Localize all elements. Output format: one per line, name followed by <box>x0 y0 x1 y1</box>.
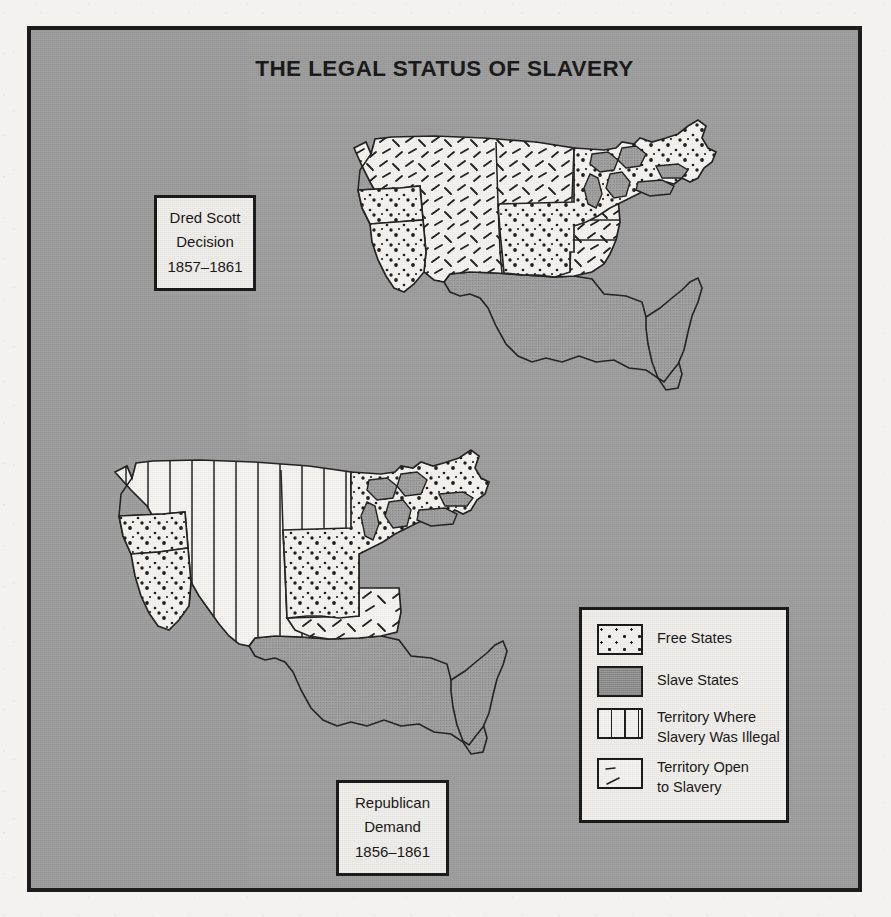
callout-dred-scott: Dred Scott Decision 1857–1861 <box>154 195 256 291</box>
legend-label-territory-open-line2: to Slavery <box>657 779 721 795</box>
legend-label-territory-open: Territory Open to Slavery <box>657 758 749 797</box>
legend-row-territory-open: Territory Open to Slavery <box>597 758 786 797</box>
region-california <box>131 548 191 630</box>
territory-open-swatch-marks <box>599 760 643 789</box>
figure-title: THE LEGAL STATUS OF SLAVERY <box>31 56 858 82</box>
callout-dred-line2: Decision <box>167 230 243 254</box>
territory-open-swatch-icon <box>597 758 643 789</box>
callout-dred-line1: Dred Scott <box>167 206 243 230</box>
legend-label-territory-illegal: Territory Where Slavery Was Illegal <box>657 708 780 747</box>
region-oregon <box>119 512 188 554</box>
legend-label-territory-illegal-line2: Slavery Was Illegal <box>657 729 780 745</box>
map-legend: Free States Slave States Territory Where… <box>579 607 789 823</box>
republican-demand-map <box>59 450 619 790</box>
page-background: THE LEGAL STATUS OF SLAVERY <box>0 0 891 917</box>
callout-repub-line1: Republican <box>349 791 436 815</box>
territory-illegal-swatch-icon <box>597 708 643 739</box>
slave-states-swatch-icon <box>597 666 643 697</box>
republican-demand-map-svg <box>59 450 619 790</box>
region-oregon <box>358 186 423 224</box>
legend-row-free-states: Free States <box>597 624 786 655</box>
callout-repub-line3: 1856–1861 <box>349 840 436 864</box>
callout-republican-demand: Republican Demand 1856–1861 <box>336 780 449 876</box>
free-states-swatch-icon <box>597 624 643 655</box>
region-california <box>370 220 426 292</box>
region-southeast-coast <box>646 278 702 382</box>
dred-scott-map-svg <box>274 112 794 422</box>
legend-row-slave-states: Slave States <box>597 666 786 697</box>
callout-repub-line2: Demand <box>349 815 436 839</box>
map-figure-frame: THE LEGAL STATUS OF SLAVERY <box>27 26 862 892</box>
legend-label-territory-illegal-line1: Territory Where <box>657 709 756 725</box>
dred-scott-map <box>274 112 794 422</box>
legend-label-territory-open-line1: Territory Open <box>657 759 749 775</box>
callout-dred-line3: 1857–1861 <box>167 255 243 279</box>
region-southeast-coast <box>451 641 507 745</box>
legend-row-territory-illegal: Territory Where Slavery Was Illegal <box>597 708 786 747</box>
legend-label-slave-states: Slave States <box>657 666 738 691</box>
legend-label-free-states: Free States <box>657 624 732 649</box>
